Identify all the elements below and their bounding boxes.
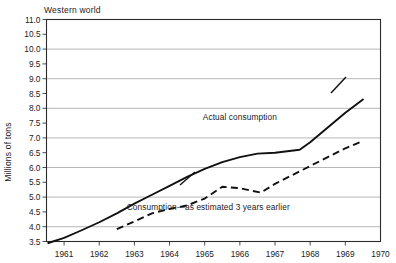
y-tick-label: 7.5 <box>29 118 41 128</box>
y-tick-label: 3.5 <box>29 237 41 247</box>
y-tick-label: 4.5 <box>29 207 41 217</box>
y-tick-label: 5.5 <box>29 177 41 187</box>
x-tick-label: 1962 <box>90 249 109 259</box>
y-tick-label: 8.0 <box>29 103 41 113</box>
annotation-1: Consumption—as estimated 3 years earlier <box>127 202 290 212</box>
line-chart: Western world Millions of tons 3.54.04.5… <box>0 0 396 263</box>
y-tick-label: 8.5 <box>29 89 41 99</box>
y-tick-label: 5.0 <box>29 192 41 202</box>
y-tick-label: 9.0 <box>29 74 41 84</box>
x-tick-label: 1965 <box>195 249 214 259</box>
y-tick-label: 6.0 <box>29 163 41 173</box>
x-tick-label: 1967 <box>266 249 285 259</box>
y-axis-label: Millions of tons <box>3 122 13 181</box>
y-tick-label: 11.0 <box>25 15 41 25</box>
y-tick-label: 10.0 <box>24 44 41 54</box>
x-tick-label: 1966 <box>231 249 250 259</box>
y-tick-label: 9.5 <box>29 59 41 69</box>
y-tick-label: 6.5 <box>29 148 41 158</box>
x-tick-label: 1968 <box>301 249 320 259</box>
chart-title: Western world <box>44 5 101 15</box>
y-tick-label: 10.5 <box>24 29 41 39</box>
x-tick-label: 1961 <box>55 249 74 259</box>
x-tick-label: 1964 <box>160 249 179 259</box>
x-tick-label: 1963 <box>125 249 144 259</box>
y-tick-label: 7.0 <box>29 133 41 143</box>
y-tick-label: 4.0 <box>29 222 41 232</box>
chart-figure: Western world Millions of tons 3.54.04.5… <box>0 0 396 263</box>
x-tick-label: 1969 <box>336 249 355 259</box>
annotation-0: Actual consumption <box>203 112 277 122</box>
chart-background <box>0 0 396 263</box>
x-tick-label: 1970 <box>371 249 390 259</box>
